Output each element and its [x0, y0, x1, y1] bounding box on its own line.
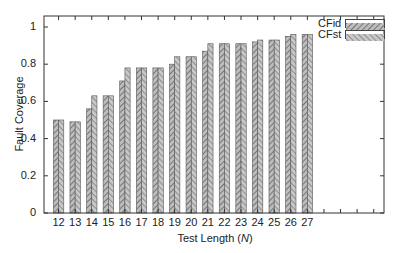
y-tick-label: 0.6	[10, 94, 36, 106]
bar-cfst-26	[291, 34, 296, 213]
bar-cfst-27	[307, 34, 312, 213]
bar-cfst-15	[108, 96, 113, 213]
legend-item-cfst: CFst	[318, 29, 385, 40]
y-tick-label: 0.2	[10, 169, 36, 181]
bar-cfst-16	[125, 68, 130, 213]
y-axis-label: Fault Coverage	[13, 59, 25, 169]
y-tick-label: 0.4	[10, 132, 36, 144]
bar-cfst-21	[208, 44, 213, 213]
y-tick-label: 0	[10, 206, 36, 218]
bar-cfid-22	[219, 44, 224, 213]
bar-cfid-15	[103, 96, 108, 213]
bar-cfid-18	[153, 68, 158, 213]
bar-cfst-18	[158, 68, 163, 213]
bar-cfid-23	[236, 44, 241, 213]
bar-cfst-23	[241, 44, 246, 213]
bars-group	[53, 34, 312, 213]
legend-swatch-cfid	[345, 19, 385, 28]
bar-cfst-14	[92, 96, 97, 213]
bar-cfid-17	[136, 68, 141, 213]
bar-cfst-24	[258, 40, 263, 213]
bar-cfid-19	[169, 64, 174, 213]
bar-cfst-13	[75, 122, 80, 213]
bar-cfid-13	[70, 122, 75, 213]
bar-cfid-12	[53, 120, 58, 213]
bar-cfid-24	[252, 42, 257, 213]
bar-cfid-25	[269, 40, 274, 213]
x-axis-label: Test Length (N)	[150, 232, 280, 244]
y-tick-label: 0.8	[10, 57, 36, 69]
bar-cfst-17	[142, 68, 147, 213]
bar-cfid-16	[120, 81, 125, 213]
bar-cfid-21	[203, 51, 208, 213]
bar-cfst-22	[224, 44, 229, 213]
x-tick-label: 27	[297, 216, 317, 228]
bar-cfid-20	[186, 57, 191, 213]
bar-cfst-19	[175, 57, 180, 213]
bar-cfst-12	[59, 120, 64, 213]
bar-cfid-27	[302, 34, 307, 213]
legend-swatch-cfst	[345, 30, 385, 39]
legend: CFid CFst	[318, 18, 385, 40]
bar-cfid-26	[286, 36, 291, 213]
y-tick-label: 1	[10, 20, 36, 32]
bar-cfst-20	[191, 57, 196, 213]
bar-chart: Fault Coverage Test Length (N) 00.20.40.…	[0, 0, 393, 253]
bar-cfst-25	[274, 40, 279, 213]
bar-cfid-14	[87, 109, 92, 213]
